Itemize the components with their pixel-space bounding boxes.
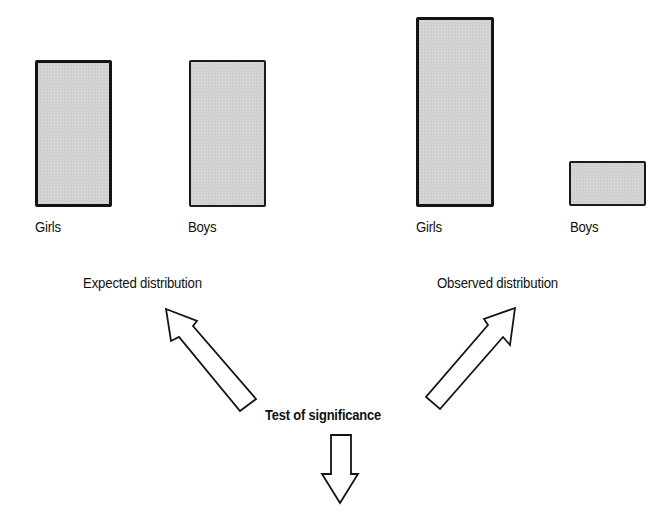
arrow-down-icon (322, 435, 358, 503)
arrow-up-left-icon (166, 309, 256, 411)
arrow-up-right-icon (426, 308, 515, 409)
test-of-significance-label: Test of significance (265, 406, 381, 424)
arrows-layer (0, 0, 659, 531)
